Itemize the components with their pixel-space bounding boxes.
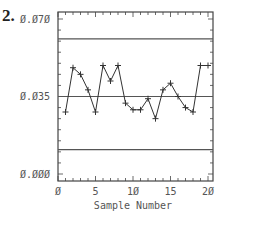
x-tick-label: Ø — [55, 186, 61, 197]
series-line — [66, 66, 209, 119]
y-tick-label: Ø.Ø7Ø — [20, 14, 50, 25]
x-axis-title: Sample Number — [94, 200, 172, 211]
x-tick-label: 2Ø — [202, 186, 214, 197]
y-tick-label: Ø.ØØØ — [20, 169, 50, 180]
data-series — [63, 63, 212, 122]
y-tick-label: Ø.Ø35 — [20, 91, 50, 102]
control-chart: Ø.ØØØØ.Ø35Ø.Ø7ØØ51Ø152ØSample Number — [0, 0, 253, 225]
control-limit-lines — [58, 39, 213, 150]
x-tick-label: 5 — [92, 186, 98, 197]
x-tick-label: 15 — [164, 186, 176, 197]
x-tick-label: 1Ø — [127, 186, 139, 197]
